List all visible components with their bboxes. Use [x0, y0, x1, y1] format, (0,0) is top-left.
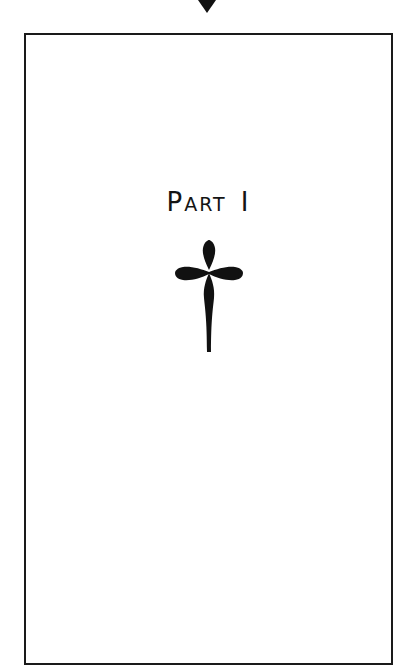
heading-initial: P	[167, 187, 185, 217]
page-frame: PARTI	[24, 33, 393, 665]
heading-number: I	[241, 187, 251, 217]
cross-fleuree-icon	[175, 240, 243, 352]
heading-smallcaps: ART	[184, 193, 226, 215]
triangle-down-icon	[198, 0, 216, 13]
part-heading: PARTI	[26, 187, 391, 217]
